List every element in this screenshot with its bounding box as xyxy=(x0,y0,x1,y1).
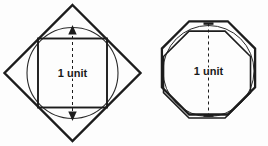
figure-canvas: 1 unit 1 unit xyxy=(0,0,268,146)
dimension-cap-bottom xyxy=(204,114,214,116)
dimension-label-right: 1 unit xyxy=(194,65,224,77)
dimension-label-left: 1 unit xyxy=(58,67,88,79)
dimension-cap-top xyxy=(204,22,214,24)
geometry-diagram: 1 unit 1 unit xyxy=(0,0,268,146)
